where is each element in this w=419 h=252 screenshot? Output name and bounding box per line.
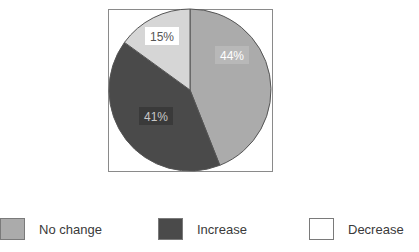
pie-chart: 44%41%15% <box>0 0 419 200</box>
legend-label-decrease: Decrease <box>348 222 404 237</box>
slice-value-label: 41% <box>144 110 168 124</box>
legend-label-increase: Increase <box>197 222 247 237</box>
legend-swatch-increase <box>158 218 183 240</box>
slice-value-label: 44% <box>220 49 244 63</box>
legend-item-no-change: No change <box>0 217 102 241</box>
legend-label-no-change: No change <box>39 222 102 237</box>
slice-value-label: 15% <box>150 30 174 44</box>
legend-item-increase: Increase <box>158 217 247 241</box>
legend-swatch-decrease <box>309 218 334 240</box>
legend-swatch-no-change <box>0 218 25 240</box>
legend-item-decrease: Decrease <box>309 217 404 241</box>
